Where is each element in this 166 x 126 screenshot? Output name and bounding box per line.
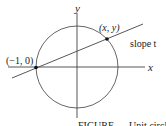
- point-minus-one-zero: [34, 66, 38, 70]
- point-label-x-y: (x, y): [99, 22, 120, 34]
- y-axis-label: y: [74, 2, 80, 14]
- point-label-minus-one-zero: (−1, 0): [6, 55, 33, 67]
- slope-label: slope t: [130, 38, 157, 49]
- point-x-y: [105, 37, 109, 41]
- figure-caption: FIGURE … Unit circle: [78, 120, 166, 126]
- x-axis-label: x: [147, 61, 153, 73]
- slope-line: [12, 24, 143, 78]
- unit-circle-diagram: y x (−1, 0) (x, y) slope t FIGURE … Unit…: [0, 0, 166, 126]
